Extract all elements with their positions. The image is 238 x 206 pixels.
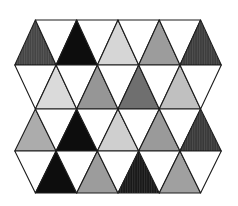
triangle-tessellation-figure xyxy=(0,0,238,206)
tessellation-canvas xyxy=(0,0,238,206)
triangle-layer xyxy=(15,20,222,193)
